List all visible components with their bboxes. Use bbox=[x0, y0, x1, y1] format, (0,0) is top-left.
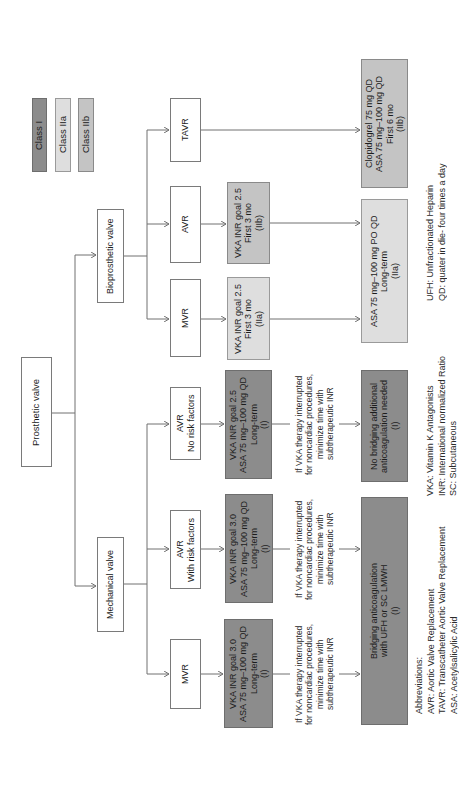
rx-line: Long-term bbox=[249, 625, 260, 721]
note-line: for noncardiac procedures, bbox=[304, 623, 315, 724]
rx-bridging-anticoagulation: Bridging anticoagulation with UFH or SC … bbox=[361, 497, 408, 725]
node-mechanical-valve: Mechanical valve bbox=[97, 537, 124, 632]
rx-class: (IIb) bbox=[395, 75, 406, 171]
node-label: AVR bbox=[175, 518, 186, 582]
node-mech-mvr: MVR bbox=[170, 639, 201, 709]
rx-clopidogrel: Clopidogrel 75 mg QD ASA 75 mg–100 mg QD… bbox=[361, 59, 408, 188]
rx-class: (I) bbox=[260, 500, 271, 596]
abbreviation: SC: Subcutaneous bbox=[448, 356, 459, 496]
note-line: minimize time with bbox=[315, 498, 326, 599]
rx-mech-mvr: VKA INR goal 3.0 ASA 75 mg–100 mg QD Lon… bbox=[224, 619, 273, 728]
node-bio-tavr: TAVR bbox=[170, 98, 201, 162]
rx-line: VKA INR goal 3.0 bbox=[228, 625, 239, 721]
rx-line: First 3 mo bbox=[243, 283, 254, 353]
rx-line: Long-term bbox=[379, 215, 390, 327]
legend-label: Class IIa bbox=[58, 117, 69, 154]
rx-class: (I) bbox=[259, 376, 270, 472]
note-line: If VKA therapy interrupted bbox=[294, 623, 305, 724]
legend-class-i: Class I bbox=[32, 98, 47, 172]
note-line: for noncardiac procedures, bbox=[304, 498, 315, 599]
node-label: Mechanical valve bbox=[105, 550, 116, 619]
rx-class: (IIa) bbox=[254, 283, 265, 353]
note-line: for noncardiac procedures, bbox=[304, 373, 315, 474]
rx-asa-long-term: ASA 75 mg–100 mg PO QD Long-term (IIa) bbox=[361, 199, 408, 343]
abbreviations-col-2: VKA: Vitamin K Antagonists INR: Internat… bbox=[425, 380, 459, 496]
rx-line: First 6 mo bbox=[385, 75, 396, 171]
node-label: AVR bbox=[175, 395, 186, 453]
rx-class: (I) bbox=[390, 563, 401, 659]
node-label: AVR bbox=[180, 216, 191, 234]
node-label: MVR bbox=[180, 308, 191, 328]
rx-line: VKA INR goal 2.5 bbox=[233, 188, 244, 258]
note-line: minimize time with bbox=[315, 373, 326, 474]
abbreviation: QD: quater in die- four times a day bbox=[437, 163, 449, 301]
legend-label: Class IIb bbox=[81, 117, 92, 154]
legend-class-iia: Class IIa bbox=[55, 98, 71, 172]
node-label: Prosthetic valve bbox=[31, 378, 42, 445]
rx-bio-mvr: VKA INR goal 2.5 First 3 mo (IIa) bbox=[227, 277, 270, 360]
rx-line: ASA 75 mg–100 mg QD bbox=[238, 625, 249, 721]
node-label: Bioprosthetic valve bbox=[105, 218, 116, 294]
node-label: No risk factors bbox=[186, 395, 197, 453]
rx-line: Long-term bbox=[249, 376, 260, 472]
rx-line: ASA 75 mg–100 mg QD bbox=[239, 500, 250, 596]
rx-class: (I) bbox=[259, 625, 270, 721]
rx-line: ASA 75 mg–100 mg PO QD bbox=[369, 215, 380, 327]
abbreviation: UFH: Unfractionated Heparin bbox=[425, 163, 437, 301]
rx-line: ASA 75 mg–100 mg QD bbox=[238, 376, 249, 472]
rx-line: VKA INR goal 2.5 bbox=[233, 283, 244, 353]
rx-line: No bridging additional bbox=[369, 379, 380, 472]
note-line: subtherapeutic INR bbox=[325, 373, 336, 474]
rx-line: VKA INR goal 2.5 bbox=[228, 376, 239, 472]
node-label: TAVR bbox=[180, 119, 191, 142]
note-line: subtherapeutic INR bbox=[325, 498, 336, 599]
rx-line: Bridging anticoagulation bbox=[369, 563, 380, 659]
node-mech-avr-no-risk: AVR No risk factors bbox=[170, 387, 201, 460]
note-line: minimize time with bbox=[315, 623, 326, 724]
note-vka-interrupted-with-risk: If VKA therapy interrupted for noncardia… bbox=[290, 495, 339, 603]
node-prosthetic-valve: Prosthetic valve bbox=[21, 357, 52, 467]
abbreviation: ASA: Acetylsalicylic Acid bbox=[449, 526, 459, 714]
rx-no-bridging: No bridging additional anticoagulation n… bbox=[361, 370, 408, 482]
rx-mech-avr-with-risk: VKA INR goal 3.0 ASA 75 mg–100 mg QD Lon… bbox=[225, 494, 273, 603]
abbreviations-heading: Abbreviations: bbox=[414, 526, 426, 714]
node-bio-avr: AVR bbox=[170, 186, 201, 263]
abbreviation: TAVR: Transcatheter Aortic Valve Replace… bbox=[437, 526, 449, 714]
abbreviations-col-1: Abbreviations: AVR: Aortic Valve Replace… bbox=[414, 530, 459, 714]
rx-line: First 3 mo bbox=[243, 188, 254, 258]
node-mech-avr-with-risk: AVR With risk factors bbox=[170, 510, 201, 589]
legend-label: Class I bbox=[34, 120, 45, 149]
note-line: subtherapeutic INR bbox=[325, 623, 336, 724]
rx-line: with UFH or SC LMWH bbox=[379, 563, 390, 659]
rx-class: (I) bbox=[390, 379, 401, 472]
rx-class: (IIb) bbox=[254, 188, 265, 258]
node-bio-mvr: MVR bbox=[170, 279, 201, 357]
node-label: MVR bbox=[180, 664, 191, 684]
rx-line: VKA INR goal 3.0 bbox=[228, 500, 239, 596]
abbreviation: INR: International normalized Ratio bbox=[437, 356, 449, 496]
legend-class-iib: Class IIb bbox=[78, 98, 94, 172]
abbreviations-col-3: UFH: Unfractionated Heparin QD: quater i… bbox=[425, 140, 455, 301]
note-line: If VKA therapy interrupted bbox=[294, 498, 305, 599]
rx-line: Long-term bbox=[249, 500, 260, 596]
rx-class: (IIa) bbox=[390, 215, 401, 327]
rx-line: Clopidogrel 75 mg QD bbox=[364, 75, 375, 171]
abbreviation: AVR: Aortic Valve Replacement bbox=[426, 526, 438, 714]
abbreviation: VKA: Vitamin K Antagonists bbox=[425, 356, 437, 496]
rx-mech-avr-no-risk: VKA INR goal 2.5 ASA 75 mg–100 mg QD Lon… bbox=[225, 370, 272, 479]
note-line: If VKA therapy interrupted bbox=[294, 373, 305, 474]
node-bioprosthetic-valve: Bioprosthetic valve bbox=[97, 209, 124, 303]
rx-line: anticoagulation needed bbox=[379, 379, 390, 472]
node-label: With risk factors bbox=[186, 518, 197, 582]
rx-line: ASA 75 mg–100 mg QD bbox=[374, 75, 385, 171]
note-vka-interrupted-no-risk: If VKA therapy interrupted for noncardia… bbox=[290, 370, 339, 478]
note-vka-interrupted-mvr: If VKA therapy interrupted for noncardia… bbox=[290, 620, 339, 728]
rx-bio-avr: VKA INR goal 2.5 First 3 mo (IIb) bbox=[227, 182, 270, 264]
